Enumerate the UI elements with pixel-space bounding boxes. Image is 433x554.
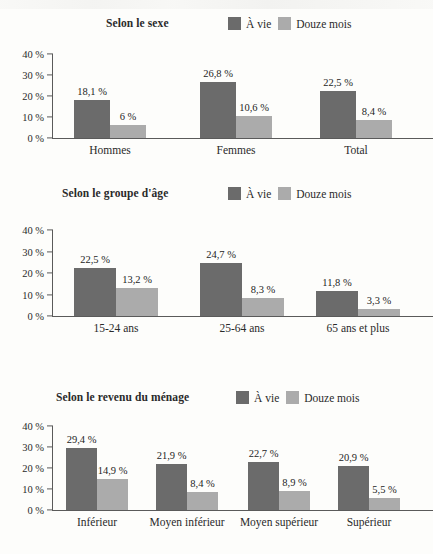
bar-value-label: 6 % bbox=[120, 111, 137, 122]
bar-a-vie bbox=[66, 448, 97, 510]
bar-douze-mois bbox=[97, 479, 128, 510]
x-axis-category-label: Total bbox=[344, 144, 367, 156]
y-axis-tick-label: 40 % bbox=[8, 421, 44, 432]
axis-area: 0 %10 %20 %30 %40 %22,5 %13,2 %15-24 ans… bbox=[8, 212, 433, 364]
legend-swatch-douze-mois-icon bbox=[278, 17, 291, 30]
y-axis-tick-label: 0 % bbox=[8, 505, 44, 516]
bar-value-label: 8,9 % bbox=[282, 477, 307, 488]
x-axis-category-label: Inférieur bbox=[77, 516, 117, 528]
y-axis-tick-mark bbox=[47, 95, 53, 96]
bar-a-vie bbox=[74, 100, 110, 138]
x-axis-category-label: Hommes bbox=[89, 144, 131, 156]
bar-douze-mois bbox=[187, 492, 218, 510]
plot-area: 0 %10 %20 %30 %40 %18,1 %6 %Hommes26,8 %… bbox=[0, 40, 433, 184]
chart-legend: À vie Douze mois bbox=[228, 187, 352, 200]
bar-value-label: 22,5 % bbox=[323, 77, 353, 88]
bar-a-vie bbox=[320, 91, 356, 138]
scan-artifact-band bbox=[0, 0, 433, 9]
chart-legend: À vie Douze mois bbox=[228, 17, 352, 30]
bar-value-label: 26,8 % bbox=[203, 68, 233, 79]
y-axis-tick-mark bbox=[47, 74, 53, 75]
x-axis-category-label: Moyen supérieur bbox=[240, 516, 318, 528]
bar-value-label: 8,4 % bbox=[190, 478, 215, 489]
bar-value-label: 13,2 % bbox=[122, 274, 152, 285]
bar-value-label: 22,5 % bbox=[80, 254, 110, 265]
bar-a-vie bbox=[248, 462, 279, 510]
legend-item-a-vie: À vie bbox=[228, 187, 271, 200]
bar-value-label: 29,4 % bbox=[67, 434, 97, 445]
bar-value-label: 3,3 % bbox=[367, 295, 392, 306]
x-axis-category-label: Supérieur bbox=[347, 516, 392, 528]
bar-value-label: 14,9 % bbox=[98, 465, 128, 476]
y-axis-tick-label: 20 % bbox=[8, 268, 44, 279]
y-axis-tick-mark bbox=[47, 294, 53, 295]
y-axis-tick-label: 30 % bbox=[8, 442, 44, 453]
x-axis-category-label: 15-24 ans bbox=[93, 322, 138, 334]
legend-swatch-a-vie-icon bbox=[228, 17, 241, 30]
bar-value-label: 18,1 % bbox=[77, 86, 107, 97]
legend-swatch-a-vie-icon bbox=[236, 391, 249, 404]
bar-a-vie bbox=[316, 291, 358, 316]
bar-value-label: 21,9 % bbox=[157, 450, 187, 461]
bar-douze-mois bbox=[110, 125, 146, 138]
chart-panel-revenu-menage: Selon le revenu du ménage À vie Douze mo… bbox=[0, 388, 433, 554]
y-axis-tick-mark bbox=[47, 229, 53, 230]
bar-douze-mois bbox=[369, 498, 400, 510]
y-axis-tick-mark bbox=[47, 272, 53, 273]
y-axis-tick-mark bbox=[47, 446, 53, 447]
legend-item-a-vie: À vie bbox=[236, 391, 279, 404]
x-axis-category-label: Femmes bbox=[217, 144, 256, 156]
legend-swatch-douze-mois-icon bbox=[278, 187, 291, 200]
legend-label-douze-mois: Douze mois bbox=[296, 18, 351, 30]
y-axis-tick-label: 30 % bbox=[8, 246, 44, 257]
bar-value-label: 5,5 % bbox=[372, 484, 397, 495]
y-axis-tick-mark bbox=[47, 467, 53, 468]
y-axis-tick-label: 10 % bbox=[8, 289, 44, 300]
bar-value-label: 10,6 % bbox=[239, 102, 269, 113]
chart-panel-sexe: Selon le sexe À vie Douze mois 0 %10 %20… bbox=[0, 14, 433, 184]
bar-douze-mois bbox=[358, 309, 400, 316]
legend-item-douze-mois: Douze mois bbox=[278, 187, 351, 200]
legend-label-douze-mois: Douze mois bbox=[296, 188, 351, 200]
chart-header: Selon le revenu du ménage À vie Douze mo… bbox=[0, 388, 433, 410]
bar-douze-mois bbox=[236, 116, 272, 138]
y-axis-tick-label: 40 % bbox=[8, 225, 44, 236]
legend-label-a-vie: À vie bbox=[246, 18, 271, 30]
bar-a-vie bbox=[156, 464, 187, 510]
y-axis-tick-mark bbox=[47, 137, 53, 138]
bar-a-vie bbox=[74, 268, 116, 316]
legend-item-douze-mois: Douze mois bbox=[286, 391, 359, 404]
y-axis-tick-label: 30 % bbox=[8, 70, 44, 81]
y-axis-tick-mark bbox=[47, 509, 53, 510]
y-axis-tick-label: 20 % bbox=[8, 91, 44, 102]
legend-label-a-vie: À vie bbox=[246, 188, 271, 200]
x-axis-category-label: 25-64 ans bbox=[219, 322, 264, 334]
bar-value-label: 8,3 % bbox=[251, 284, 276, 295]
y-axis-tick-mark bbox=[47, 488, 53, 489]
x-axis-category-label: Moyen inférieur bbox=[149, 516, 224, 528]
bar-douze-mois bbox=[116, 288, 158, 316]
chart-title: Selon le sexe bbox=[106, 17, 169, 29]
x-axis-baseline bbox=[52, 316, 433, 317]
chart-title: Selon le groupe d'âge bbox=[62, 187, 168, 199]
chart-header: Selon le groupe d'âge À vie Douze mois bbox=[0, 184, 433, 206]
y-axis-tick-label: 20 % bbox=[8, 463, 44, 474]
bar-value-label: 11,8 % bbox=[322, 277, 351, 288]
y-axis-tick-label: 0 % bbox=[8, 311, 44, 322]
chart-header: Selon le sexe À vie Douze mois bbox=[0, 14, 433, 36]
bar-douze-mois bbox=[242, 298, 284, 316]
bar-a-vie bbox=[200, 82, 236, 138]
y-axis-tick-label: 10 % bbox=[8, 112, 44, 123]
bar-value-label: 20,9 % bbox=[339, 452, 369, 463]
chart-legend: À vie Douze mois bbox=[236, 391, 360, 404]
legend-swatch-douze-mois-icon bbox=[286, 391, 299, 404]
x-axis-baseline bbox=[52, 138, 433, 139]
x-axis-category-label: 65 ans et plus bbox=[327, 322, 390, 334]
bar-douze-mois bbox=[356, 120, 392, 138]
y-axis-tick-mark bbox=[47, 116, 53, 117]
plot-area: 0 %10 %20 %30 %40 %29,4 %14,9 %Inférieur… bbox=[0, 414, 433, 554]
axis-area: 0 %10 %20 %30 %40 %18,1 %6 %Hommes26,8 %… bbox=[8, 40, 433, 184]
legend-item-a-vie: À vie bbox=[228, 17, 271, 30]
y-axis-tick-mark bbox=[47, 315, 53, 316]
axis-area: 0 %10 %20 %30 %40 %29,4 %14,9 %Inférieur… bbox=[8, 414, 433, 554]
